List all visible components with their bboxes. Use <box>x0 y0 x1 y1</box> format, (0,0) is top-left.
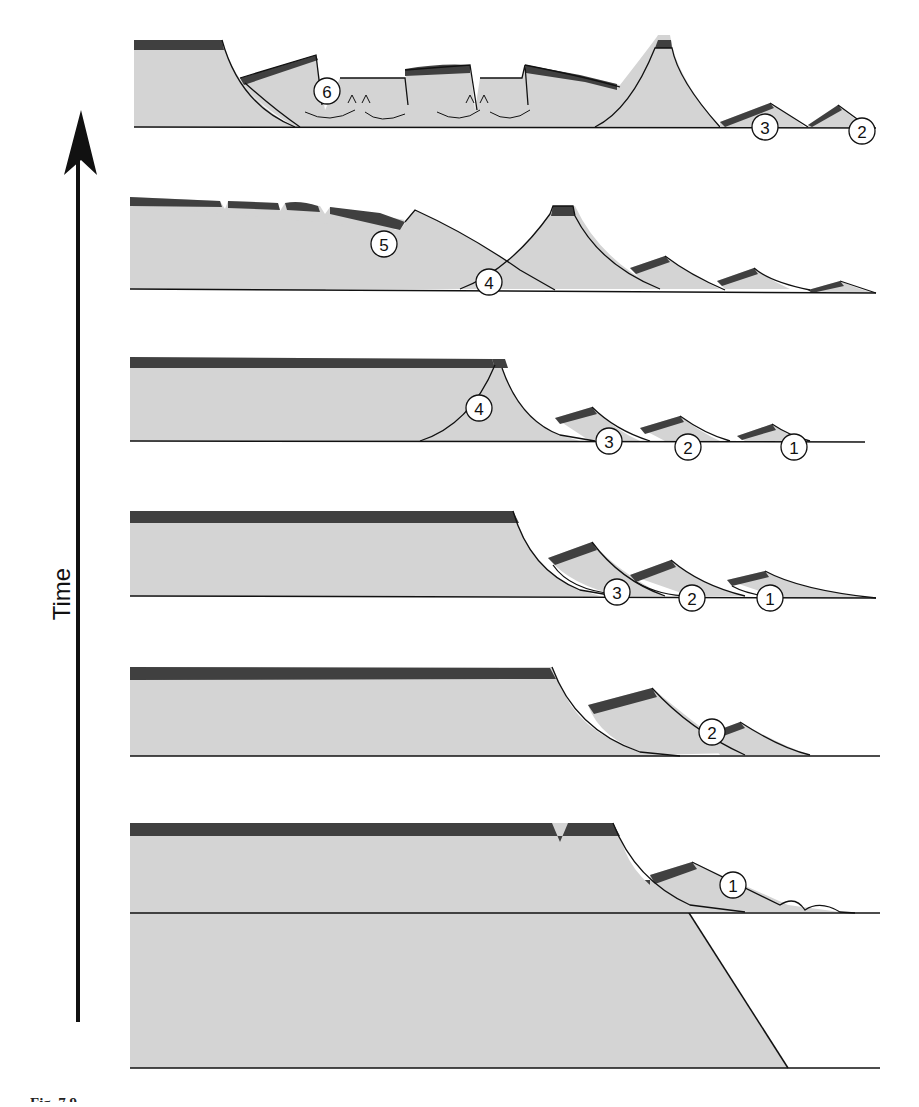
label-badge-4: 4 <box>466 395 492 421</box>
svg-text:2: 2 <box>687 590 696 609</box>
panel-stage-5: 4 3 2 1 <box>130 357 865 460</box>
svg-text:3: 3 <box>612 584 621 603</box>
svg-text:3: 3 <box>760 119 769 138</box>
svg-text:2: 2 <box>857 123 866 142</box>
label-badge-1: 1 <box>781 434 807 460</box>
label-badge-6: 6 <box>314 78 340 104</box>
panel-stage-2: 1 <box>130 823 880 913</box>
svg-text:1: 1 <box>765 590 774 609</box>
svg-text:1: 1 <box>728 877 737 896</box>
svg-text:5: 5 <box>379 236 388 255</box>
label-badge-2: 2 <box>675 434 701 460</box>
panel-stage-4: 3 2 1 <box>130 511 876 611</box>
svg-text:4: 4 <box>484 274 493 293</box>
label-badge-2: 2 <box>699 719 725 745</box>
time-axis-label: Time <box>48 568 76 620</box>
label-badge-1: 1 <box>720 872 746 898</box>
label-badge-3: 3 <box>604 579 630 605</box>
svg-text:1: 1 <box>789 439 798 458</box>
label-badge-2: 2 <box>679 585 705 611</box>
label-badge-5: 5 <box>371 231 397 257</box>
panel-stage-3: 2 <box>130 667 880 756</box>
svg-text:2: 2 <box>707 724 716 743</box>
panel-stage-6: 5 4 <box>130 197 876 295</box>
label-badge-2: 2 <box>849 118 875 144</box>
time-arrow <box>64 110 97 1022</box>
svg-text:3: 3 <box>604 433 613 452</box>
svg-text:2: 2 <box>683 439 692 458</box>
svg-text:6: 6 <box>322 83 331 102</box>
label-badge-3: 3 <box>752 114 778 140</box>
svg-text:4: 4 <box>474 400 483 419</box>
label-badge-3: 3 <box>596 428 622 454</box>
label-badge-1: 1 <box>757 585 783 611</box>
tectonic-evolution-diagram: 1 2 3 2 1 <box>0 0 919 1107</box>
panel-stage-7: 6 3 2 <box>134 35 876 144</box>
label-badge-4: 4 <box>476 269 502 295</box>
